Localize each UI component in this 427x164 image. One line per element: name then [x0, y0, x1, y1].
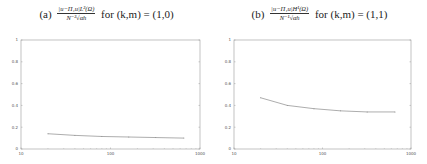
x-tick-label: 10 [231, 151, 237, 156]
data-point [155, 137, 156, 138]
y-tick-label: 0.4 [12, 103, 19, 108]
y-tick-label: 0.2 [225, 125, 232, 130]
y-tick-label: 0.4 [225, 103, 232, 108]
panel-b: (b) |u−Π₁u|H¹(Ω) N⁻¹√αh for (k,m) = (1,1… [213, 0, 426, 164]
data-point [340, 110, 341, 111]
y-tick-label: 1 [15, 37, 18, 42]
data-point [47, 133, 48, 134]
data-point [395, 111, 396, 112]
x-tick-label: 100 [319, 151, 327, 156]
data-point [128, 137, 129, 138]
plot-a: 00.20.40.60.81101001000 [0, 0, 213, 164]
y-tick-label: 0.6 [12, 81, 19, 86]
y-tick-label: 0.2 [12, 125, 19, 130]
data-point [183, 138, 184, 139]
plot-frame [234, 40, 411, 149]
data-line [48, 134, 184, 138]
y-tick-label: 0.8 [225, 59, 232, 64]
x-tick-label: 1000 [406, 151, 417, 156]
data-line [261, 98, 395, 112]
data-point [74, 135, 75, 136]
y-tick-label: 0.6 [225, 81, 232, 86]
panel-a: (a) |u−Π₁u|L²(Ω) N⁻²√αh for (k,m) = (1,0… [0, 0, 213, 164]
data-point [287, 105, 288, 106]
x-tick-label: 100 [107, 151, 115, 156]
y-tick-label: 1 [228, 37, 231, 42]
x-tick-label: 1000 [195, 151, 206, 156]
plot-frame [21, 40, 200, 149]
plot-b: 00.20.40.60.81101001000 [213, 0, 427, 164]
data-point [367, 111, 368, 112]
x-tick-label: 10 [18, 151, 24, 156]
y-tick-label: 0.8 [12, 59, 19, 64]
data-point [101, 136, 102, 137]
data-point [313, 108, 314, 109]
data-point [260, 97, 261, 98]
